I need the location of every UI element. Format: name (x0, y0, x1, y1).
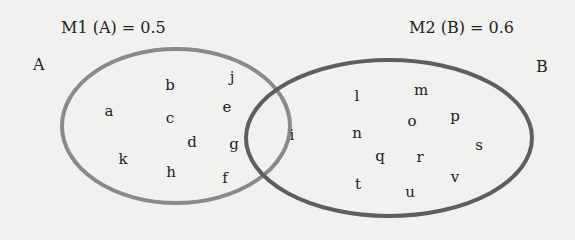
element-g: g (229, 137, 239, 152)
element-e: e (223, 100, 232, 115)
set-a-label: A (33, 57, 45, 73)
element-k: k (118, 152, 127, 167)
element-j: j (230, 70, 235, 85)
element-l: l (355, 89, 360, 104)
element-v: v (451, 170, 459, 185)
element-d: d (187, 135, 197, 150)
element-c: c (166, 111, 174, 126)
element-o: o (407, 114, 416, 129)
element-r: r (416, 150, 423, 165)
element-i: i (290, 128, 295, 143)
m2-mass-title: M2 (B) = 0.6 (409, 20, 514, 36)
element-n: n (352, 126, 362, 141)
element-u: u (405, 185, 415, 200)
m1-mass-title: M1 (A) = 0.5 (61, 20, 166, 36)
element-a: a (105, 104, 114, 119)
element-p: p (450, 109, 460, 124)
set-b-label: B (536, 59, 548, 75)
element-s: s (475, 138, 483, 153)
element-m: m (414, 83, 428, 98)
element-h: h (166, 165, 176, 180)
element-b: b (165, 78, 175, 93)
element-f: f (222, 171, 228, 186)
element-q: q (375, 149, 385, 164)
element-t: t (355, 177, 361, 192)
